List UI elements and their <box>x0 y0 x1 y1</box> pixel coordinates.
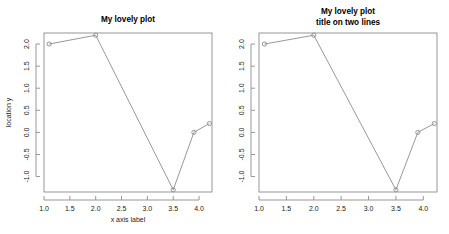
x-axis-tick-label: 1.0 <box>39 205 49 212</box>
x-axis-tick-label: 3.0 <box>143 205 153 212</box>
y-axis-tick-label: 1.0 <box>238 83 245 93</box>
plot-box <box>44 33 212 192</box>
x-axis-tick-label: 2.0 <box>91 205 101 212</box>
plot-title-line: My lovely plot <box>101 15 155 24</box>
plot-canvas-right: My lovely plottitle on two lines2.01.51.… <box>225 0 449 234</box>
x-axis-tick-label: 2.5 <box>117 205 127 212</box>
y-axis-tick-label: 0.0 <box>238 127 245 137</box>
y-axis-tick-label: 1.5 <box>23 61 30 71</box>
x-axis-tick-label: 4.0 <box>194 205 204 212</box>
y-axis-tick-label: -1.0 <box>23 170 30 182</box>
y-axis-tick-label: 0.5 <box>238 105 245 115</box>
plot-title-line: My lovely plot <box>321 7 375 16</box>
plot-canvas-left: My lovely plot2.01.51.00.50.0-0.5-1.01.0… <box>0 0 225 234</box>
plot-panel-right: My lovely plottitle on two lines2.01.51.… <box>225 0 449 234</box>
x-axis-tick-label: 4.0 <box>418 205 428 212</box>
y-axis-tick-label: -1.0 <box>238 170 245 182</box>
y-axis-tick-label: -0.5 <box>23 148 30 160</box>
plot-box <box>259 33 437 192</box>
data-series-line <box>264 35 434 190</box>
y-axis-tick-label: 2.0 <box>238 39 245 49</box>
x-axis-tick-label: 2.5 <box>336 205 346 212</box>
y-axis-label: location y <box>5 97 13 127</box>
plot-panel-left: My lovely plot2.01.51.00.50.0-0.5-1.01.0… <box>0 0 225 234</box>
y-axis-tick-label: -0.5 <box>238 148 245 160</box>
x-axis-tick-label: 3.0 <box>364 205 374 212</box>
x-axis-tick-label: 3.5 <box>391 205 401 212</box>
data-point-marker <box>432 121 436 125</box>
x-axis-tick-label: 3.5 <box>168 205 178 212</box>
y-axis-tick-label: 1.0 <box>23 83 30 93</box>
data-series-line <box>49 35 209 190</box>
r-plot-figure: My lovely plot2.01.51.00.50.0-0.5-1.01.0… <box>0 0 449 234</box>
y-axis-tick-label: 0.5 <box>23 105 30 115</box>
x-axis-label: x axis label <box>111 216 146 223</box>
x-axis-tick-label: 1.5 <box>282 205 292 212</box>
x-axis-tick-label: 2.0 <box>309 205 319 212</box>
y-axis-tick-label: 0.0 <box>23 127 30 137</box>
x-axis-tick-label: 1.5 <box>65 205 75 212</box>
x-axis-tick-label: 1.0 <box>254 205 264 212</box>
y-axis-tick-label: 1.5 <box>238 61 245 71</box>
y-axis-tick-label: 2.0 <box>23 39 30 49</box>
plot-title-line: title on two lines <box>316 18 381 27</box>
